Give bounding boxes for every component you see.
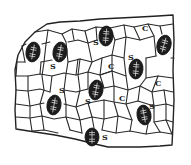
- epidermis-diagram: SSSSSSSCCCC: [0, 0, 191, 165]
- epidermal-cell-label: C: [142, 23, 148, 33]
- epidermal-cell-label: C: [119, 93, 125, 103]
- subsidiary-cell-label: S: [128, 52, 134, 62]
- subsidiary-cell-label: S: [102, 132, 108, 142]
- epidermal-cell-label: C: [108, 61, 114, 71]
- epidermal-cell-label: C: [155, 78, 161, 88]
- subsidiary-cell-label: S: [85, 96, 91, 106]
- subsidiary-cell-label: S: [93, 37, 99, 47]
- subsidiary-cell-label: S: [50, 61, 56, 71]
- subsidiary-cell-label: S: [59, 85, 65, 95]
- stoma: [85, 128, 99, 146]
- subsidiary-cell-label: S: [149, 101, 155, 111]
